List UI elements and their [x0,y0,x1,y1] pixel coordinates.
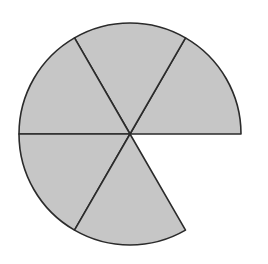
pie-sectors-group [19,23,241,245]
pie-figure-container [0,0,268,264]
pie-chart-svg [0,0,268,264]
